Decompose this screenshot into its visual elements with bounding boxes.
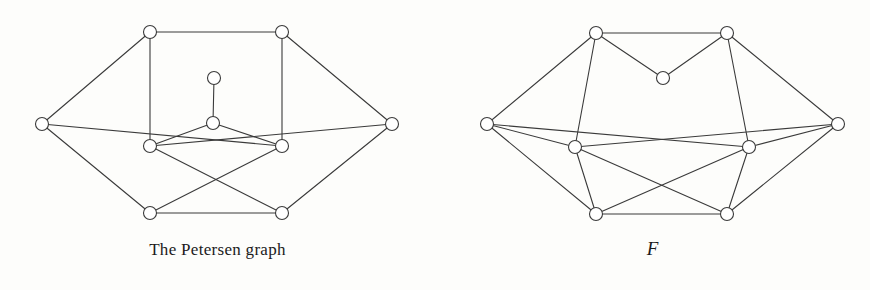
graph-edge xyxy=(727,33,838,124)
graph-edge xyxy=(727,147,749,214)
graph-vertex-outer-left xyxy=(36,118,49,131)
graph-edge xyxy=(282,32,392,124)
graph-vertex-outer-bottom-left xyxy=(590,208,603,221)
vertex-layer xyxy=(481,27,845,221)
graph-F-diagram xyxy=(435,0,870,240)
graph-vertex-outer-top-left xyxy=(144,26,157,39)
figure-root: The Petersen graph F xyxy=(0,0,870,290)
graph-edge xyxy=(42,124,150,213)
graph-edge xyxy=(727,124,838,214)
graph-vertex-outer-bottom-left xyxy=(144,207,157,220)
graph-edge xyxy=(727,33,749,147)
graph-edge xyxy=(596,33,663,78)
graph-edge xyxy=(42,32,150,124)
graph-edge xyxy=(487,33,596,124)
vertex-layer xyxy=(36,26,399,220)
graph-vertex-outer-left xyxy=(481,118,494,131)
graph-edge xyxy=(575,147,596,214)
graph-vertex-inner-right xyxy=(276,140,289,153)
graph-vertex-outer-right xyxy=(832,118,845,131)
graph-edge xyxy=(575,147,727,214)
caption-petersen: The Petersen graph xyxy=(0,240,435,260)
graph-edge xyxy=(596,147,749,214)
edge-layer xyxy=(487,33,838,214)
graph-vertex-outer-bottom-right xyxy=(276,207,289,220)
graph-vertex-inner-left xyxy=(569,141,582,154)
graph-vertex-outer-right xyxy=(386,118,399,131)
graph-edge xyxy=(575,33,596,147)
graph-vertex-outer-top-right xyxy=(721,27,734,40)
graph-vertex-outer-top-left xyxy=(590,27,603,40)
graph-vertex-inner-right xyxy=(743,141,756,154)
graph-edge xyxy=(282,124,392,213)
graph-vertex-outer-bottom-right xyxy=(721,208,734,221)
graph-vertex-outer-top-right xyxy=(276,26,289,39)
graph-edge xyxy=(487,124,596,214)
graph-edge xyxy=(663,33,727,78)
graph-vertex-inner-top xyxy=(657,72,670,85)
graph-edge xyxy=(42,124,282,146)
graph-vertex-inner-top xyxy=(208,72,221,85)
petersen-graph-diagram xyxy=(0,0,435,240)
graph-vertex-inner-center xyxy=(207,117,220,130)
caption-graph-F: F xyxy=(435,238,870,260)
graph-vertex-inner-left xyxy=(144,140,157,153)
